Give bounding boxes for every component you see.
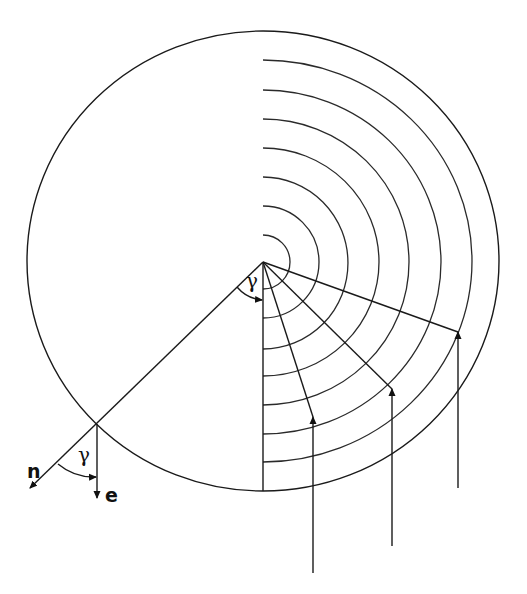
normal-n-label: n: [27, 460, 41, 482]
ray-1: [263, 262, 313, 417]
arc-3: [263, 177, 348, 349]
gamma-center-label: γ: [246, 269, 258, 293]
ray-2: [263, 262, 392, 389]
arc-4: [263, 148, 379, 376]
arc-5: [263, 119, 409, 405]
gamma-boundary-label: γ: [78, 443, 90, 467]
wavefront-diagram: γ γ n e: [0, 0, 527, 594]
incoming-arrows: [313, 332, 458, 573]
arc-1: [263, 235, 290, 289]
ray-3: [263, 262, 458, 332]
boundary-angle-arc: [58, 464, 96, 477]
normal-ray: [30, 262, 263, 488]
arc-2: [263, 206, 319, 318]
rays: [30, 262, 458, 491]
direction-e-label: e: [105, 484, 118, 506]
wavefront-arcs: [263, 60, 472, 462]
